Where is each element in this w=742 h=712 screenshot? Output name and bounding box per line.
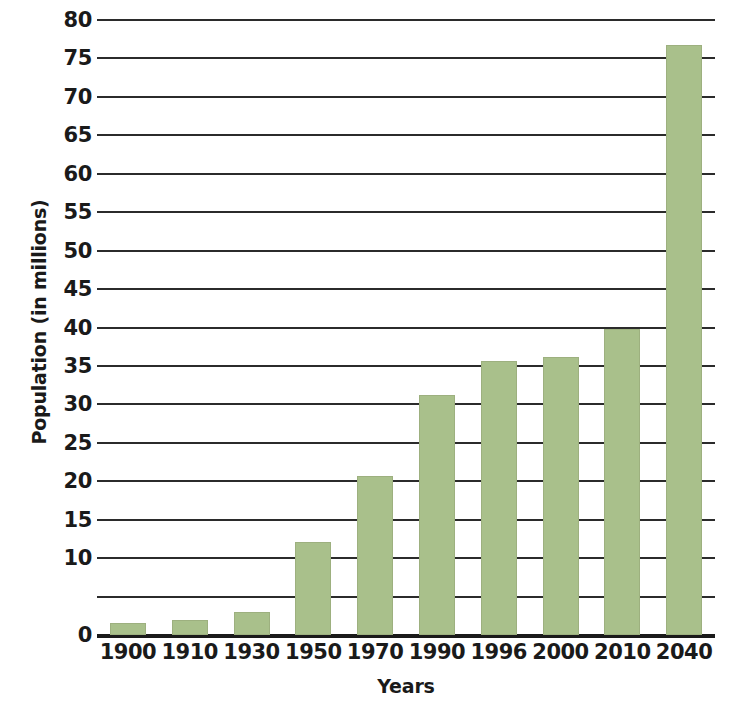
bar-1990	[419, 395, 455, 635]
plot-area	[97, 20, 715, 635]
x-tick-label-1996: 1996	[470, 641, 526, 664]
bars-group	[97, 20, 715, 635]
bar-1950	[295, 542, 331, 635]
x-tick-label-1990: 1990	[409, 641, 465, 664]
x-axis-title: Years	[97, 675, 715, 697]
x-tick-label-1970: 1970	[347, 641, 403, 664]
y-tick-label-25: 25	[30, 432, 92, 453]
bar-1970	[357, 476, 393, 635]
x-axis-tick-labels: 1900191019301950197019901996200020102040	[97, 641, 715, 671]
y-tick-label-75: 75	[30, 48, 92, 69]
y-tick-label-80: 80	[30, 10, 92, 31]
y-tick-label-55: 55	[30, 202, 92, 223]
y-tick-label-45: 45	[30, 279, 92, 300]
bar-1910	[172, 620, 208, 635]
bar-1996	[481, 361, 517, 635]
y-tick-label-30: 30	[30, 394, 92, 415]
bar-2040	[666, 45, 702, 635]
y-tick-label-65: 65	[30, 125, 92, 146]
y-axis-tick-labels: 8075706560555045403530252015100	[30, 0, 92, 712]
x-tick-label-2040: 2040	[656, 641, 712, 664]
y-tick-label-50: 50	[30, 240, 92, 261]
y-tick-label-70: 70	[30, 86, 92, 107]
x-tick-label-2000: 2000	[532, 641, 588, 664]
y-tick-label-40: 40	[30, 317, 92, 338]
bar-chart-figure: Population (in millions) 807570656055504…	[0, 0, 742, 712]
y-tick-label-10: 10	[30, 548, 92, 569]
y-tick-label-20: 20	[30, 471, 92, 492]
x-tick-label-2010: 2010	[594, 641, 650, 664]
x-tick-label-1900: 1900	[100, 641, 156, 664]
y-tick-label-35: 35	[30, 355, 92, 376]
bar-2010	[604, 329, 640, 635]
x-tick-label-1930: 1930	[223, 641, 279, 664]
x-tick-label-1950: 1950	[285, 641, 341, 664]
y-tick-label-0: 0	[30, 625, 92, 646]
x-tick-label-1910: 1910	[161, 641, 217, 664]
bar-1900	[110, 623, 146, 635]
bar-1930	[234, 612, 270, 635]
y-tick-label-15: 15	[30, 509, 92, 530]
y-tick-label-60: 60	[30, 163, 92, 184]
bar-2000	[543, 357, 579, 635]
